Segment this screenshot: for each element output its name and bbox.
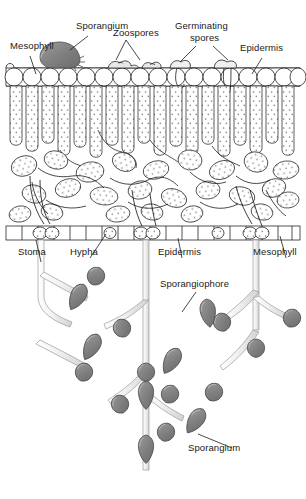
germinating-spores	[170, 60, 236, 68]
label-germinating-spores-2: spores	[190, 32, 219, 43]
label-epidermis-bottom: Epidermis	[158, 246, 201, 257]
label-sporangium-bottom: Sporangium	[188, 442, 240, 453]
leaf-infection-diagram: Mesophyll Sporangium Zoospores Germinati…	[0, 0, 306, 499]
upper-epidermal-cells	[5, 68, 306, 86]
label-epidermis-top: Epidermis	[240, 42, 283, 53]
label-mesophyll-bottom: Mesophyll	[253, 246, 297, 257]
zoospores	[108, 61, 161, 68]
spongy-mesophyll	[8, 148, 300, 224]
label-sporangiophore: Sporangiophore	[160, 278, 229, 289]
label-hypha: Hypha	[70, 246, 98, 257]
palisade-mesophyll	[10, 86, 294, 157]
label-stoma: Stoma	[18, 246, 46, 257]
leader-germinating-spores	[180, 46, 228, 62]
leader-zoospores	[116, 40, 140, 60]
label-germinating-spores-1: Germinating	[175, 20, 228, 31]
label-zoospores: Zoospores	[113, 27, 159, 38]
label-mesophyll-top: Mesophyll	[10, 40, 54, 51]
leader-sporangium-top	[70, 36, 88, 50]
leader-sporangiophore	[182, 292, 196, 312]
